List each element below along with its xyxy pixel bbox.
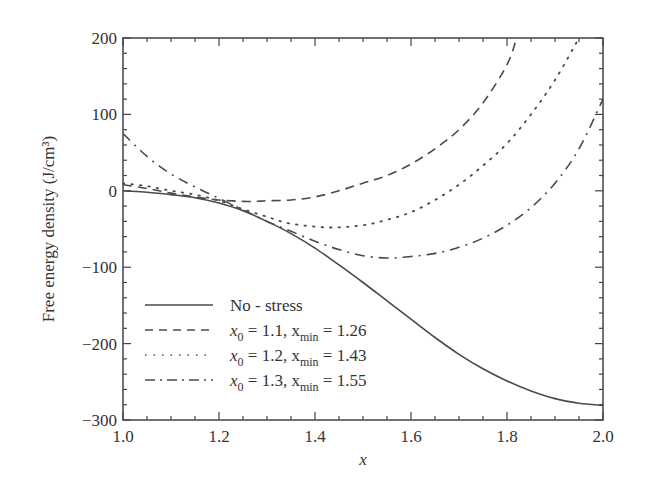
y-axis-tick-labels: 2001000−100−200−300 [82, 29, 117, 430]
line-chart: 2001000−100−200−300 1.01.21.41.61.82.0 x… [0, 0, 647, 492]
y-axis-label: Free energy density (J/cm³) [39, 136, 58, 323]
x-axis-tick-labels: 1.01.21.41.61.82.0 [112, 427, 613, 446]
series-line-dash-dot [123, 99, 603, 258]
y-tick-label: 200 [92, 29, 118, 48]
y-tick-label: 0 [109, 182, 118, 201]
x-tick-label: 1.6 [400, 427, 421, 446]
x-tick-label: 2.0 [592, 427, 613, 446]
x-tick-label: 1.4 [304, 427, 326, 446]
series-line-dashed [123, 38, 517, 202]
series-line-dotted [123, 38, 579, 228]
legend-label-no-stress: No - stress [230, 296, 303, 315]
x-tick-label: 1.2 [208, 427, 229, 446]
y-tick-label: 100 [92, 105, 118, 124]
y-tick-label: −100 [82, 258, 117, 277]
x-tick-label: 1.0 [112, 427, 133, 446]
y-tick-label: −200 [82, 335, 117, 354]
legend-label-x0-1-2: x0 = 1.2, xmin = 1.43 [229, 346, 366, 369]
legend-label-x0-1-3: x0 = 1.3, xmin = 1.55 [229, 371, 366, 394]
x-tick-label: 1.8 [496, 427, 517, 446]
x-axis-label: x [358, 450, 367, 469]
legend-label-x0-1-1: x0 = 1.1, xmin = 1.26 [229, 321, 366, 344]
legend: No - stress x0 = 1.1, xmin = 1.26 x0 = 1… [145, 296, 366, 394]
